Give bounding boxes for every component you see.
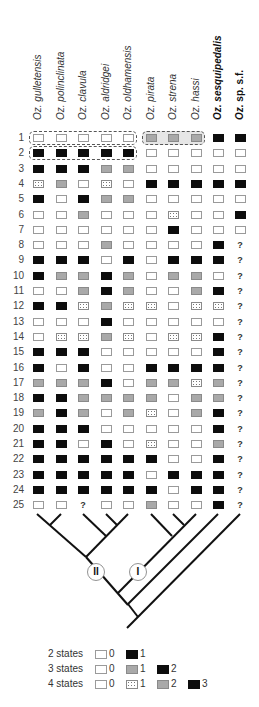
legend-swatch-white bbox=[95, 665, 107, 674]
character-matrix-figure: Oz. gulletensisOz. polinclinataOz. clavu… bbox=[0, 0, 259, 707]
legend-swatch-grey bbox=[126, 665, 138, 674]
legend-value: 2 bbox=[171, 664, 177, 674]
legend-value: 0 bbox=[109, 679, 115, 689]
legend-swatch-black bbox=[126, 650, 138, 659]
legend-swatch-dotted bbox=[126, 680, 138, 689]
legend-swatch-white bbox=[95, 680, 107, 689]
legend-label: 4 states bbox=[48, 679, 83, 689]
legend-swatch-grey bbox=[157, 680, 169, 689]
legend-label: 3 states bbox=[48, 664, 83, 674]
legend-value: 0 bbox=[109, 664, 115, 674]
legend-value: 1 bbox=[140, 649, 146, 659]
legend-swatch-black bbox=[188, 680, 200, 689]
legend-value: 1 bbox=[140, 679, 146, 689]
clade-label-I: I bbox=[130, 567, 147, 577]
legend-swatch-black bbox=[157, 665, 169, 674]
phylogenetic-tree bbox=[0, 0, 259, 707]
legend-value: 0 bbox=[109, 649, 115, 659]
legend-value: 1 bbox=[140, 664, 146, 674]
clade-label-II: II bbox=[88, 567, 105, 577]
legend-value: 3 bbox=[202, 679, 208, 689]
legend-label: 2 states bbox=[48, 649, 83, 659]
legend-swatch-white bbox=[95, 650, 107, 659]
legend-value: 2 bbox=[171, 679, 177, 689]
